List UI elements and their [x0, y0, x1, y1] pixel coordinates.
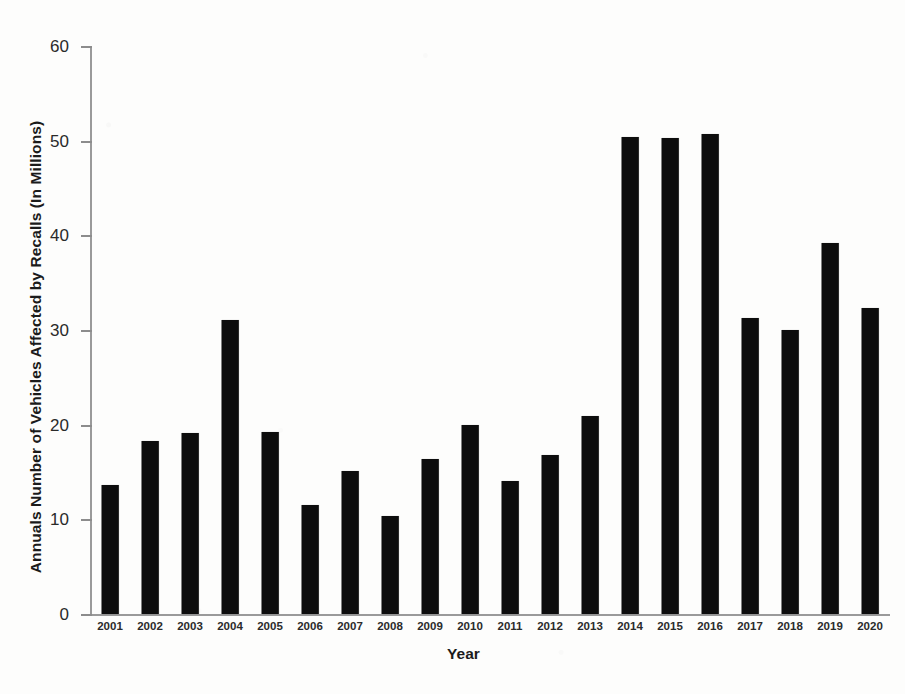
bar-group[interactable]: 2017	[730, 46, 770, 614]
x-axis-tick-label: 2006	[297, 620, 323, 632]
x-axis-tick-label: 2009	[417, 620, 443, 632]
bar[interactable]	[182, 433, 199, 614]
y-axis-tick-label: 50	[50, 132, 69, 152]
bar-group[interactable]: 2010	[450, 46, 490, 614]
x-axis-tick-label: 2012	[537, 620, 563, 632]
bar[interactable]	[342, 471, 359, 614]
bar-group[interactable]: 2007	[330, 46, 370, 614]
bar-group[interactable]: 2005	[250, 46, 290, 614]
y-axis-tick-label: 20	[50, 416, 69, 436]
x-axis-tick-label: 2001	[97, 620, 123, 632]
y-axis-tick-label: 10	[50, 510, 69, 530]
chart-page: Annuals Number of Vehicles Affected by R…	[0, 0, 905, 694]
bar[interactable]	[422, 459, 439, 614]
bar-group[interactable]: 2016	[690, 46, 730, 614]
y-axis-tick-label: 0	[60, 605, 69, 625]
bar-group[interactable]: 2006	[290, 46, 330, 614]
plot-area: 0102030405060 20012002200320042005200620…	[90, 46, 890, 614]
x-axis-tick-label: 2020	[857, 620, 883, 632]
x-axis-tick-label: 2013	[577, 620, 603, 632]
x-axis-tick-label: 2019	[817, 620, 843, 632]
y-axis-title-text: Annuals Number of Vehicles Affected by R…	[27, 121, 45, 573]
bar[interactable]	[742, 318, 759, 614]
x-axis-tick-label: 2008	[377, 620, 403, 632]
bar[interactable]	[382, 516, 399, 614]
bar-group[interactable]: 2015	[650, 46, 690, 614]
x-axis-tick-label: 2014	[617, 620, 643, 632]
x-axis-tick-label: 2003	[177, 620, 203, 632]
bar-group[interactable]: 2004	[210, 46, 250, 614]
bar-group[interactable]: 2002	[130, 46, 170, 614]
bar-group[interactable]: 2001	[90, 46, 130, 614]
bar-group[interactable]: 2018	[770, 46, 810, 614]
y-axis-tick-label: 40	[50, 226, 69, 246]
bar[interactable]	[542, 455, 559, 614]
x-axis-tick-label: 2002	[137, 620, 163, 632]
bar[interactable]	[102, 485, 119, 614]
bar[interactable]	[462, 425, 479, 614]
x-axis-tick-label: 2018	[777, 620, 803, 632]
y-axis-tick-label: 60	[50, 37, 69, 57]
bar[interactable]	[222, 320, 239, 614]
bar[interactable]	[302, 505, 319, 614]
x-axis-tick-label: 2016	[697, 620, 723, 632]
y-axis-tick-label: 30	[50, 321, 69, 341]
y-axis-title: Annuals Number of Vehicles Affected by R…	[14, 0, 58, 694]
x-axis-line	[90, 614, 890, 616]
bar-group[interactable]: 2009	[410, 46, 450, 614]
bar-group[interactable]: 2020	[850, 46, 890, 614]
bar[interactable]	[262, 432, 279, 614]
bar[interactable]	[782, 330, 799, 614]
x-axis-tick-label: 2004	[217, 620, 243, 632]
bar-group[interactable]: 2019	[810, 46, 850, 614]
bar-group[interactable]: 2008	[370, 46, 410, 614]
x-axis-tick-label: 2011	[498, 620, 523, 632]
bar-group[interactable]: 2012	[530, 46, 570, 614]
bar[interactable]	[662, 138, 679, 614]
bar[interactable]	[622, 137, 639, 614]
bar[interactable]	[862, 308, 879, 614]
x-axis-tick-label: 2015	[657, 620, 683, 632]
y-axis-tick-mark: 0	[81, 614, 92, 616]
bar-group[interactable]: 2014	[610, 46, 650, 614]
x-axis-tick-label: 2007	[337, 620, 363, 632]
bar[interactable]	[142, 441, 159, 614]
x-axis-tick-label: 2017	[737, 620, 763, 632]
x-axis-title: Year	[0, 645, 905, 663]
x-axis-title-text: Year	[447, 645, 480, 663]
bar[interactable]	[702, 134, 719, 614]
x-axis-tick-label: 2005	[257, 620, 283, 632]
bar-group[interactable]: 2011	[490, 46, 530, 614]
bar-group[interactable]: 2013	[570, 46, 610, 614]
bar[interactable]	[502, 481, 519, 614]
bar[interactable]	[822, 243, 839, 614]
bar[interactable]	[582, 416, 599, 614]
x-axis-tick-label: 2010	[457, 620, 483, 632]
bar-group[interactable]: 2003	[170, 46, 210, 614]
